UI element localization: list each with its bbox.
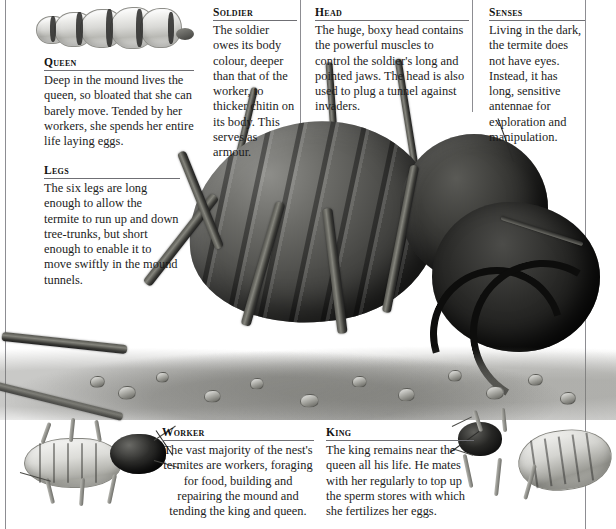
- caption-king: King The king remains near the queen all…: [326, 426, 474, 519]
- caption-body-senses: Living in the dark, the termite does not…: [489, 23, 585, 145]
- queen-termite-illustration: [34, 2, 194, 54]
- caption-soldier: Soldier The soldier owes its body colour…: [213, 6, 297, 161]
- caption-rule-legs: [44, 178, 180, 179]
- caption-rule-worker: [162, 440, 314, 441]
- caption-worker: Worker The vast majority of the nest's t…: [162, 426, 314, 519]
- caption-body-queen: Deep in the mound lives the queen, so bl…: [44, 73, 194, 149]
- caption-legs: Legs The six legs are long enough to all…: [44, 164, 180, 288]
- caption-rule-king: [326, 440, 474, 441]
- caption-body-head: The huge, boxy head contains the powerfu…: [315, 23, 469, 115]
- termite-mandible-left: [406, 243, 587, 424]
- caption-body-legs: The six legs are long enough to allow th…: [44, 181, 180, 288]
- caption-heading-king: King: [326, 426, 474, 439]
- caption-heading-senses: Senses: [489, 6, 585, 19]
- termite-head: [432, 202, 600, 352]
- column-rule-soldier: [300, 0, 301, 126]
- caption-rule-soldier: [213, 20, 297, 21]
- caption-heading-legs: Legs: [44, 164, 180, 177]
- caption-body-king: The king remains near the queen all his …: [326, 443, 474, 519]
- caption-senses: Senses Living in the dark, the termite d…: [489, 6, 585, 145]
- caption-heading-worker: Worker: [162, 426, 314, 439]
- column-rule-head: [472, 0, 473, 112]
- caption-rule-senses: [489, 20, 585, 21]
- caption-queen: Queen Deep in the mound lives the queen,…: [44, 56, 194, 149]
- illustration-plate: Queen Deep in the mound lives the queen,…: [0, 0, 616, 529]
- caption-heading-queen: Queen: [44, 56, 194, 69]
- caption-body-worker: The vast majority of the nest's termites…: [162, 443, 314, 519]
- caption-heading-soldier: Soldier: [213, 6, 297, 19]
- king-termite-illustration: [452, 408, 614, 518]
- caption-rule-queen: [44, 70, 194, 71]
- left-frame-rule: [5, 0, 6, 529]
- caption-body-soldier: The soldier owes its body colour, deeper…: [213, 23, 297, 161]
- termite-thorax: [400, 134, 548, 282]
- mound-ground: [0, 342, 616, 420]
- right-frame-rule: [585, 0, 586, 529]
- worker-termite-illustration: [18, 416, 170, 508]
- caption-rule-head: [315, 20, 469, 21]
- caption-head: Head The huge, boxy head contains the po…: [315, 6, 469, 115]
- termite-mandible-right: [455, 245, 616, 422]
- caption-heading-head: Head: [315, 6, 469, 19]
